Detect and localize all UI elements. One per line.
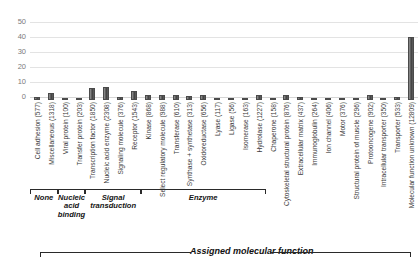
y-tick-label-10: 10 [0, 78, 26, 85]
axis-title-bracket-right [270, 252, 411, 257]
category-label-slot: Transporter (533) [390, 100, 404, 188]
category-label-slot: Motor (376) [335, 100, 349, 188]
category-label: Cell adhesion (577) [33, 102, 40, 159]
bar-slot [72, 0, 86, 100]
bar [103, 87, 109, 100]
bar-slot [113, 0, 127, 100]
category-label-slot: Isomerase (163) [238, 100, 252, 188]
bar-slot [99, 0, 113, 100]
category-label: Nucleic acid enzyme (2308) [103, 102, 110, 183]
category-label: Transcription factor (1850) [89, 102, 96, 179]
category-label-slot: Ion channel (406) [321, 100, 335, 188]
category-label: Immunoglobulin (264) [311, 102, 318, 166]
bar-slot [196, 0, 210, 100]
bar [48, 93, 54, 101]
category-label-slot: Extracellular matrix (437) [293, 100, 307, 188]
category-label-slot: Transferase (610) [169, 100, 183, 188]
category-label: Chaperone (158) [269, 102, 276, 152]
group-label: Signal transduction [85, 194, 140, 211]
bar-slot [390, 0, 404, 100]
category-label: Signaling molecule (376) [117, 102, 124, 175]
y-tick-label-40: 40 [0, 33, 26, 40]
category-label-slot: Cell adhesion (577) [30, 100, 44, 188]
bar-slot [58, 0, 72, 100]
bar-slot [155, 0, 169, 100]
bar-slot [252, 0, 266, 100]
group-label: Enzyme [141, 194, 266, 202]
category-label: Oxidoreductase (656) [200, 102, 207, 165]
bar-slot [307, 0, 321, 100]
category-label: Transporter (533) [394, 102, 401, 153]
bar-slot [335, 0, 349, 100]
y-tick-label-50: 50 [0, 18, 26, 25]
bar-slot [238, 0, 252, 100]
bar-slot [210, 0, 224, 100]
bar [131, 91, 137, 100]
category-label: Structural protein of muscle (296) [352, 102, 359, 199]
y-tick-label-0: 0 [0, 93, 26, 100]
bar-slot [363, 0, 377, 100]
bar-slot [85, 0, 99, 100]
category-axis-labels: Cell adhesion (577)Miscellaneous (1318)V… [30, 100, 418, 188]
plot-area: 50 40 30 20 10 0 [0, 0, 420, 100]
assigned-molecular-function-annotation: Assigned molecular function [0, 246, 420, 268]
category-label: Select regulatory molecule (988) [158, 102, 165, 197]
y-tick-label-20: 20 [0, 63, 26, 70]
bar-slot [349, 0, 363, 100]
category-label-slot: Transfer protein (203) [72, 100, 86, 188]
category-label-slot: Hydrolase (1227) [252, 100, 266, 188]
category-label: Intracellular transporter (350) [380, 102, 387, 187]
category-label: Ion channel (406) [324, 102, 331, 153]
bar-slot [127, 0, 141, 100]
category-label: Kinase (868) [144, 102, 151, 139]
bar-slot [224, 0, 238, 100]
bar-slot [169, 0, 183, 100]
category-label: Motor (376) [338, 102, 345, 136]
category-label: Hydrolase (1227) [255, 102, 262, 153]
bar-slot [293, 0, 307, 100]
category-label-slot: Viral protein (100) [58, 100, 72, 188]
bar-slot [30, 0, 44, 100]
group-label: Nucleic acid binding [58, 194, 86, 219]
group-brackets: NoneNucleic acid bindingSignal transduct… [30, 189, 418, 234]
bar [408, 37, 414, 100]
category-label-slot: Molecular function unknown (12809) [404, 100, 418, 188]
category-label: Extracellular matrix (437) [297, 102, 304, 175]
category-label-slot: Immunoglobulin (264) [307, 100, 321, 188]
category-label-slot: Chaperone (158) [266, 100, 280, 188]
category-label-slot: Nucleic acid enzyme (2308) [99, 100, 113, 188]
bar-slot [182, 0, 196, 100]
bar-slot [266, 0, 280, 100]
category-label-slot: Transcription factor (1850) [85, 100, 99, 188]
category-label-slot: Ligase (56) [224, 100, 238, 188]
category-label: Viral protein (100) [61, 102, 68, 154]
bar-slot [141, 0, 155, 100]
category-label: Transferase (610) [172, 102, 179, 154]
category-label-slot: Miscellaneous (1318) [44, 100, 58, 188]
bar-slot [279, 0, 293, 100]
category-label: Receptor (1543) [130, 102, 137, 150]
molecular-function-bar-chart: 50 40 30 20 10 0 Cell adhesion (577)Misc… [0, 0, 420, 273]
bar-slot [404, 0, 418, 100]
category-label-slot: Lyase (117) [210, 100, 224, 188]
group-label: None [30, 194, 58, 202]
bar-slot [44, 0, 58, 100]
axis-title-label: Assigned molecular function [190, 246, 270, 256]
category-label: Lyase (117) [214, 102, 221, 136]
category-label-slot: Oxidoreductase (656) [196, 100, 210, 188]
category-label-slot: Receptor (1543) [127, 100, 141, 188]
axis-title-bracket-left [40, 252, 191, 257]
category-label: Protooncogene (902) [366, 102, 373, 164]
category-label: Miscellaneous (1318) [47, 102, 54, 165]
category-label-slot: Synthase + synthetase (313) [182, 100, 196, 188]
category-label-slot: Intracellular transporter (350) [376, 100, 390, 188]
category-label-slot: Protooncogene (902) [363, 100, 377, 188]
category-label-slot: Structural protein of muscle (296) [349, 100, 363, 188]
category-label-slot: Kinase (868) [141, 100, 155, 188]
category-label: Synthase + synthetase (313) [186, 102, 193, 186]
category-label-slot: Cytoskeletal structural protein (876) [279, 100, 293, 188]
category-label-slot: Signaling molecule (376) [113, 100, 127, 188]
bar-series [30, 0, 418, 100]
category-label-slot: Select regulatory molecule (988) [155, 100, 169, 188]
category-label: Transfer protein (203) [75, 102, 82, 166]
